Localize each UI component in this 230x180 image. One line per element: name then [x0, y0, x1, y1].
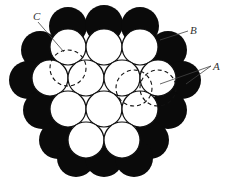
- inner-sphere: [122, 29, 158, 65]
- inner-sphere: [122, 91, 158, 127]
- label-a: A: [212, 60, 220, 72]
- inner-sphere: [68, 60, 104, 96]
- label-c: C: [33, 10, 41, 22]
- inner-sphere: [50, 91, 86, 127]
- inner-sphere: [50, 29, 86, 65]
- label-b: B: [190, 24, 197, 36]
- inner-sphere: [104, 60, 140, 96]
- close-packing-diagram: CBA: [0, 0, 230, 180]
- inner-sphere: [68, 122, 104, 158]
- inner-sphere: [86, 29, 122, 65]
- inner-sphere: [140, 60, 176, 96]
- inner-sphere: [104, 122, 140, 158]
- inner-sphere: [86, 91, 122, 127]
